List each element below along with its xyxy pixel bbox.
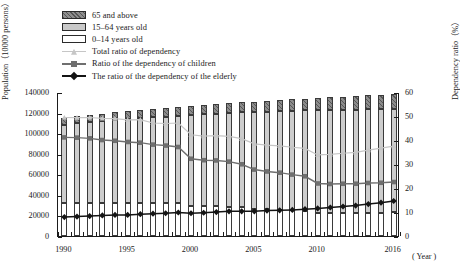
y-tick-left <box>58 175 62 176</box>
y-tick-right <box>394 141 398 142</box>
x-axis-title: ( Year ) <box>412 252 436 261</box>
y-tick-right <box>394 189 398 190</box>
y-axis-left-tick-label: 80000 <box>3 151 49 159</box>
line-series-overlay <box>58 93 400 237</box>
x-axis-tick-label: 1995 <box>107 246 147 254</box>
x-tick <box>337 232 338 236</box>
x-axis-tick-label: 2005 <box>233 246 273 254</box>
legend-item-child-dep: Ratio of the dependency of children <box>62 58 277 70</box>
x-tick <box>58 232 59 236</box>
legend-item-elder-dep: The ratio of the dependency of the elder… <box>62 70 277 82</box>
legend-line-child-dep-icon <box>62 60 86 68</box>
x-axis-tick-label: 2016 <box>373 246 413 254</box>
legend-item-work-pop: 15–64 years old <box>62 21 277 33</box>
x-tick <box>324 232 325 236</box>
y-axis-left-tick-label: 100000 <box>3 130 49 138</box>
y-axis-right-tick-label: 20 <box>405 185 427 193</box>
x-tick <box>96 232 97 236</box>
y-axis-right-tick-label: 60 <box>405 89 427 97</box>
x-tick <box>349 232 350 236</box>
plot-area <box>57 93 399 237</box>
x-tick <box>71 232 72 236</box>
x-tick <box>109 232 110 236</box>
y-axis-left-title: Population（10000 persons） <box>0 0 10 100</box>
legend-label: 65 and above <box>92 11 138 20</box>
legend-label: Total ratio of dependency <box>92 47 180 56</box>
y-tick-right <box>394 213 398 214</box>
line-children-dependency <box>62 135 396 186</box>
y-axis-left-tick-label: 40000 <box>3 192 49 200</box>
line-total-dependency <box>62 115 397 157</box>
y-tick-left <box>58 196 62 197</box>
x-tick <box>210 232 211 236</box>
y-axis-right-title: Dependency ratio（%） <box>448 18 460 100</box>
y-axis-left-tick-label: 0 <box>3 233 49 241</box>
legend-label: 0–14 years old <box>92 35 143 44</box>
y-tick-left <box>58 134 62 135</box>
legend-label: 15–64 years old <box>92 23 147 32</box>
y-tick-right <box>394 117 398 118</box>
legend-item-child-pop: 0–14 years old <box>62 33 277 45</box>
x-tick <box>159 232 160 236</box>
x-tick <box>299 232 300 236</box>
legend-swatch-elder-pop-icon <box>62 11 86 19</box>
legend-line-total-dep-icon <box>62 48 86 56</box>
x-tick <box>248 232 249 236</box>
y-axis-left-tick-label: 60000 <box>3 171 49 179</box>
y-axis-right-tick-label: 50 <box>405 113 427 121</box>
x-tick <box>185 232 186 236</box>
legend-swatch-child-pop-icon <box>62 35 86 43</box>
y-tick-right <box>394 93 398 94</box>
y-axis-right-tick-label: 0 <box>405 233 427 241</box>
y-tick-right <box>394 165 398 166</box>
y-axis-left-tick-label: 20000 <box>3 212 49 220</box>
x-tick <box>375 232 376 236</box>
x-tick <box>172 232 173 236</box>
legend-line-elder-dep-icon <box>62 72 86 80</box>
y-axis-right-tick-label: 10 <box>405 209 427 217</box>
x-tick <box>311 232 312 236</box>
y-axis-left-tick-label: 140000 <box>3 89 49 97</box>
legend-item-elder-pop: 65 and above <box>62 9 277 21</box>
x-tick <box>387 232 388 236</box>
y-tick-left <box>58 93 62 94</box>
x-tick <box>134 232 135 236</box>
x-tick <box>121 232 122 236</box>
legend-label: The ratio of the dependency of the elder… <box>92 72 237 81</box>
y-tick-left <box>58 216 62 217</box>
x-tick <box>261 232 262 236</box>
x-tick <box>362 232 363 236</box>
x-tick <box>286 232 287 236</box>
y-tick-left <box>58 155 62 156</box>
y-tick-right <box>394 237 398 238</box>
x-tick <box>273 232 274 236</box>
x-tick <box>83 232 84 236</box>
y-axis-left-tick-label: 120000 <box>3 110 49 118</box>
x-tick <box>197 232 198 236</box>
chart-legend: 65 and above15–64 years old0–14 years ol… <box>62 9 277 82</box>
legend-label: Ratio of the dependency of children <box>92 59 216 68</box>
x-axis-tick-label: 2010 <box>297 246 337 254</box>
legend-item-total-dep: Total ratio of dependency <box>62 46 277 58</box>
x-tick <box>235 232 236 236</box>
y-axis-right-tick-label: 30 <box>405 161 427 169</box>
x-axis-tick-label: 2000 <box>170 246 210 254</box>
x-tick <box>223 232 224 236</box>
line-elderly-dependency <box>61 198 397 220</box>
y-tick-left <box>58 114 62 115</box>
legend-swatch-work-pop-icon <box>62 23 86 31</box>
y-tick-left <box>58 237 62 238</box>
x-tick <box>400 232 401 236</box>
y-axis-right-tick-label: 40 <box>405 137 427 145</box>
x-axis-tick-label: 1990 <box>43 246 83 254</box>
x-tick <box>147 232 148 236</box>
